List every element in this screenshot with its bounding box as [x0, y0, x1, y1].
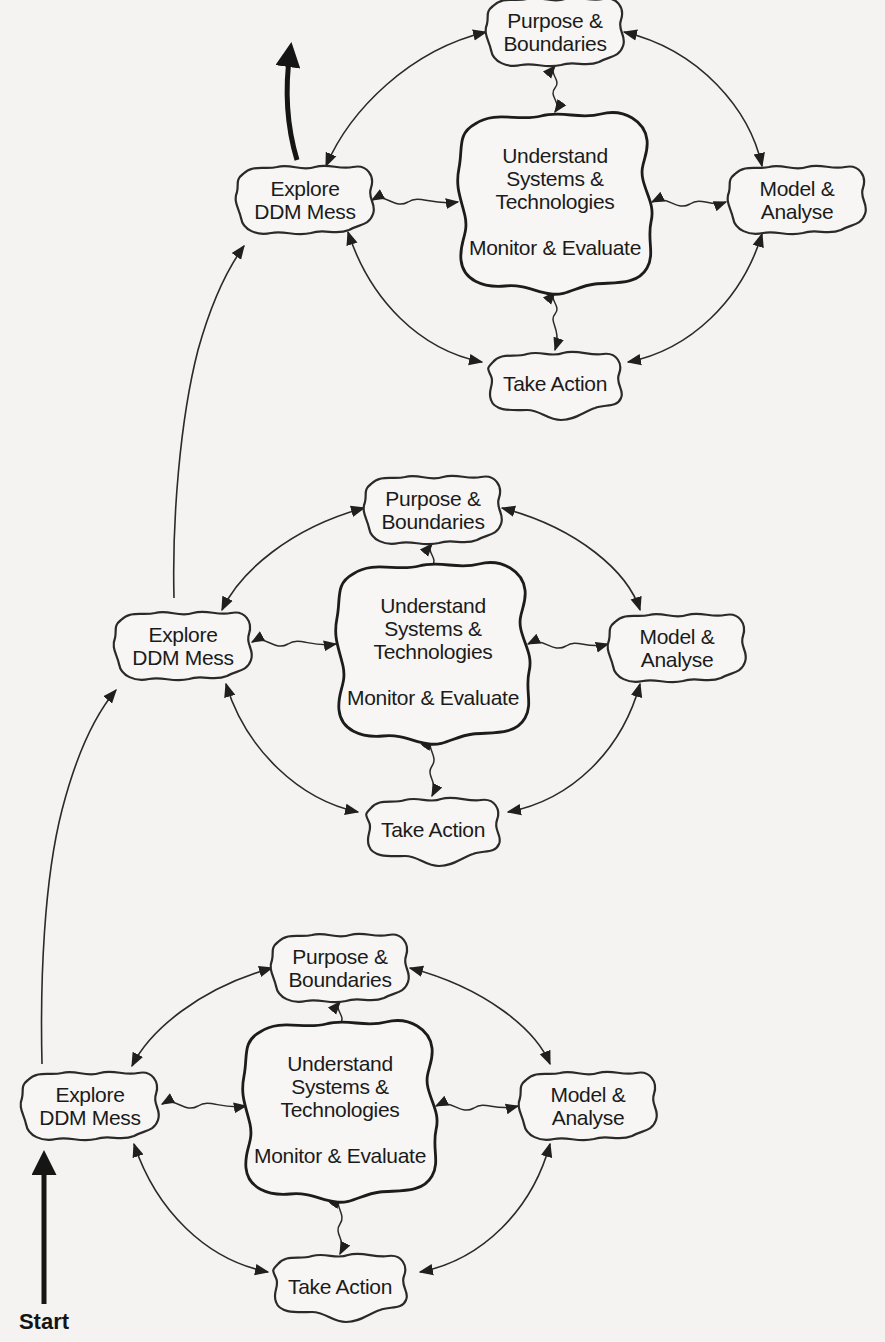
node-core-top: Understand Systems & Technologies: [496, 144, 615, 213]
node-action-bottom: Take Action: [288, 1275, 392, 1298]
node-purpose-top: Purpose & Boundaries: [503, 9, 606, 55]
arrow-bottom-to-middle-explore: [42, 690, 116, 1064]
node-label-line: Purpose &: [381, 487, 484, 510]
wavy-core-model: [652, 200, 726, 206]
node-model-bottom: Model & Analyse: [551, 1083, 626, 1129]
node-label-line: Systems &: [496, 167, 615, 190]
node-label-line: Model &: [551, 1083, 626, 1106]
wavy-core-action: [430, 738, 434, 796]
wavy-explore-core: [372, 198, 458, 204]
node-model-top: Model & Analyse: [760, 177, 835, 223]
node-explore-bottom: Explore DDM Mess: [39, 1083, 140, 1129]
arrow-middle-to-top-explore: [174, 246, 244, 598]
node-core-bottom: Understand Systems & Technologies: [281, 1052, 400, 1121]
start-label: Start: [19, 1309, 69, 1335]
node-label-line: Boundaries: [288, 968, 391, 991]
node-monitor-middle: Monitor & Evaluate: [347, 686, 519, 709]
node-label-line: Purpose &: [288, 945, 391, 968]
node-monitor-top: Monitor & Evaluate: [469, 236, 641, 259]
node-action-top: Take Action: [503, 372, 607, 395]
wavy-core-model: [528, 642, 608, 648]
node-label-line: Technologies: [374, 640, 493, 663]
node-explore-top: Explore DDM Mess: [254, 177, 355, 223]
node-label-line: Understand: [374, 594, 493, 617]
node-purpose-middle: Purpose & Boundaries: [381, 487, 484, 533]
wavy-explore-core: [162, 1102, 246, 1108]
node-label-line: Systems &: [281, 1075, 400, 1098]
node-label-line: Analyse: [640, 648, 715, 671]
wavy-core-action: [553, 292, 557, 350]
arrow-model-action: [420, 1144, 550, 1272]
node-label-line: Analyse: [551, 1106, 626, 1129]
node-label-line: DDM Mess: [254, 200, 355, 223]
node-label-line: Explore: [132, 623, 233, 646]
node-label-line: Technologies: [496, 190, 615, 213]
node-label-line: Analyse: [760, 200, 835, 223]
node-monitor-bottom: Monitor & Evaluate: [254, 1144, 426, 1167]
node-core-middle: Understand Systems & Technologies: [374, 594, 493, 663]
node-label-line: Systems &: [374, 617, 493, 640]
node-label-line: Boundaries: [503, 32, 606, 55]
node-action-middle: Take Action: [381, 818, 485, 841]
node-label-line: Model &: [640, 625, 715, 648]
node-label-line: Understand: [496, 144, 615, 167]
node-label-line: Purpose &: [503, 9, 606, 32]
node-label-line: Boundaries: [381, 510, 484, 533]
node-label-line: Technologies: [281, 1098, 400, 1121]
node-label-line: Explore: [254, 177, 355, 200]
node-label-line: Explore: [39, 1083, 140, 1106]
node-label-line: Model &: [760, 177, 835, 200]
wavy-core-action: [338, 1196, 342, 1254]
node-purpose-bottom: Purpose & Boundaries: [288, 945, 391, 991]
wavy-purpose-core: [553, 66, 557, 112]
node-label-line: DDM Mess: [132, 646, 233, 669]
process-diagram: [0, 0, 885, 1342]
node-explore-middle: Explore DDM Mess: [132, 623, 233, 669]
wavy-explore-core: [252, 640, 336, 646]
wavy-core-model: [436, 1104, 518, 1110]
node-model-middle: Model & Analyse: [640, 625, 715, 671]
bold-continue-arrow: [287, 52, 297, 160]
node-label-line: DDM Mess: [39, 1106, 140, 1129]
node-label-line: Understand: [281, 1052, 400, 1075]
